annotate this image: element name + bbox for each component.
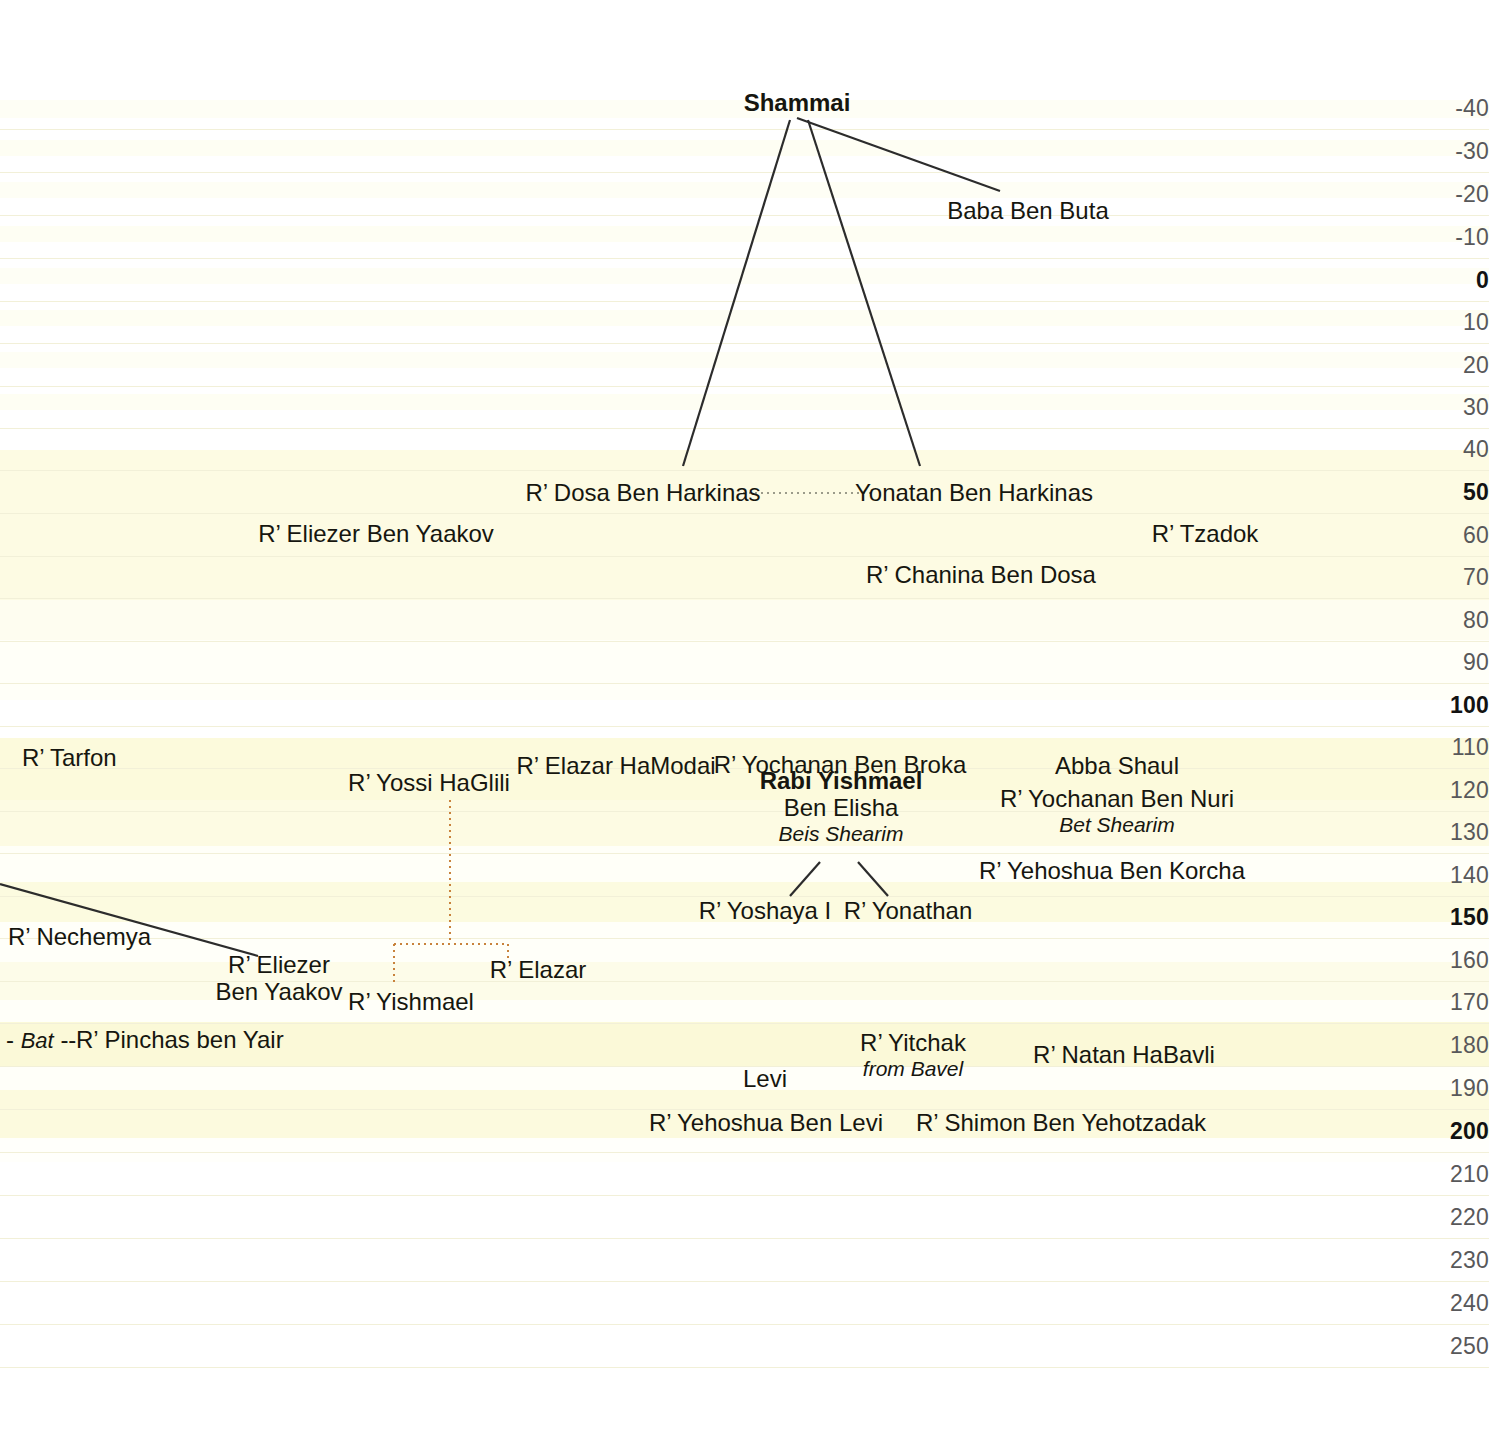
node-yossi-haglili[interactable]: R’ Yossi HaGlili	[348, 770, 510, 797]
node-yoshaya-i[interactable]: R’ Yoshaya I	[699, 898, 832, 925]
node-sublabel: Ben Elisha	[760, 795, 923, 822]
node-nechemya[interactable]: R’ Nechemya	[8, 924, 151, 951]
gridline	[0, 1195, 1489, 1196]
axis-tick-neg20: -20	[1385, 183, 1489, 206]
gridline	[0, 513, 1489, 514]
axis-tick-20: 20	[1385, 354, 1489, 377]
node-eliezer-ben-yaakov-1[interactable]: R’ Eliezer Ben Yaakov	[258, 521, 494, 548]
axis-tick-70: 70	[1385, 566, 1489, 589]
gridline	[0, 556, 1489, 557]
band-row	[0, 450, 1489, 600]
node-label: R’ Pinchas ben Yair	[76, 1027, 284, 1054]
gridline	[0, 1324, 1489, 1325]
node-label: Shammai	[744, 90, 851, 117]
axis-tick-180: 180	[1385, 1034, 1489, 1057]
axis-tick-100: 100	[1385, 694, 1489, 717]
node-label: R’ Yossi HaGlili	[348, 770, 510, 797]
node-shammai[interactable]: Shammai	[744, 90, 851, 117]
gridline	[0, 1281, 1489, 1282]
band-row	[0, 1138, 1489, 1162]
axis-tick-160: 160	[1385, 949, 1489, 972]
axis-tick-80: 80	[1385, 609, 1489, 632]
gridline	[0, 1152, 1489, 1153]
node-label: R’ Natan HaBavli	[1033, 1042, 1215, 1069]
node-label: R’ Yochanan Ben Nuri	[1000, 786, 1234, 813]
gridline	[0, 343, 1489, 344]
gridline	[0, 1367, 1489, 1368]
node-place: from Bavel	[860, 1057, 966, 1081]
node-eliezer-ben-yaakov-2[interactable]: R’ EliezerBen Yaakov	[215, 952, 342, 1006]
band-row	[0, 394, 1489, 410]
gridline	[0, 258, 1489, 259]
node-rabi-yishmael-ben-elisha[interactable]: Rabi YishmaelBen ElishaBeis Shearim	[760, 768, 923, 845]
axis-tick-neg40: -40	[1385, 97, 1489, 120]
gridline	[0, 853, 1489, 854]
node-label: Abba Shaul	[1055, 753, 1179, 780]
axis-tick-30: 30	[1385, 396, 1489, 419]
node-yochanan-ben-nuri[interactable]: R’ Yochanan Ben NuriBet Shearim	[1000, 786, 1234, 836]
node-label: R’ Yoshaya I	[699, 898, 832, 925]
node-yonathan[interactable]: R’ Yonathan	[844, 898, 973, 925]
bat-dash-right: --	[60, 1026, 76, 1053]
gridline	[0, 172, 1489, 173]
node-chanina-ben-dosa[interactable]: R’ Chanina Ben Dosa	[866, 562, 1096, 589]
node-label: R’ Elazar	[490, 957, 586, 984]
gridline	[0, 470, 1489, 471]
band-row	[0, 640, 1489, 700]
node-label: R’ Yehoshua Ben Levi	[649, 1110, 883, 1137]
axis-tick-130: 130	[1385, 821, 1489, 844]
node-label: R’ Tzadok	[1152, 521, 1259, 548]
node-label: R’ Elazar HaModai	[516, 753, 715, 780]
bat-dash-left: -	[6, 1026, 14, 1053]
node-baba-ben-buta[interactable]: Baba Ben Buta	[947, 198, 1108, 225]
gridline	[0, 129, 1489, 130]
axis-tick-90: 90	[1385, 651, 1489, 674]
node-label: Baba Ben Buta	[947, 198, 1108, 225]
node-label: Levi	[743, 1066, 787, 1093]
node-shimon-ben-yehotzadak[interactable]: R’ Shimon Ben Yehotzadak	[916, 1110, 1206, 1137]
axis-tick-0: 0	[1385, 269, 1489, 292]
node-yehoshua-ben-korcha[interactable]: R’ Yehoshua Ben Korcha	[979, 858, 1245, 885]
bat-marker: - Bat --	[6, 1027, 76, 1054]
node-yehoshua-ben-levi[interactable]: R’ Yehoshua Ben Levi	[649, 1110, 883, 1137]
node-elazar-hamodai[interactable]: R’ Elazar HaModai	[516, 753, 715, 780]
node-label: Yonatan Ben Harkinas	[855, 480, 1093, 507]
axis-tick-210: 210	[1385, 1163, 1489, 1186]
timeline-diagram: -40-30-20-100102030405060708090100110120…	[0, 0, 1489, 1432]
band-row	[0, 310, 1489, 326]
node-yonatan-ben-harkinas[interactable]: Yonatan Ben Harkinas	[855, 480, 1093, 507]
node-abba-shaul[interactable]: Abba Shaul	[1055, 753, 1179, 780]
node-sublabel: Ben Yaakov	[215, 979, 342, 1006]
axis-tick-250: 250	[1385, 1335, 1489, 1358]
axis-tick-240: 240	[1385, 1292, 1489, 1315]
band-row	[0, 226, 1489, 242]
node-levi[interactable]: Levi	[743, 1066, 787, 1093]
node-yitchak-from-bavel[interactable]: R’ Yitchakfrom Bavel	[860, 1030, 966, 1080]
gridline	[0, 598, 1489, 599]
node-label: Rabi Yishmael	[760, 768, 923, 795]
gridline	[0, 683, 1489, 684]
node-label: R’ Eliezer Ben Yaakov	[258, 521, 494, 548]
node-natan-habavli[interactable]: R’ Natan HaBavli	[1033, 1042, 1215, 1069]
node-pinchas-ben-yair[interactable]: R’ Pinchas ben Yair	[76, 1027, 284, 1054]
node-tarfon[interactable]: R’ Tarfon	[22, 745, 117, 772]
node-yishmael[interactable]: R’ Yishmael	[348, 989, 474, 1016]
axis-tick-50: 50	[1385, 481, 1489, 504]
band-row	[0, 182, 1489, 198]
bat-label: Bat	[21, 1028, 54, 1053]
band-row	[0, 352, 1489, 368]
axis-tick-neg30: -30	[1385, 140, 1489, 163]
node-elazar[interactable]: R’ Elazar	[490, 957, 586, 984]
band-row	[0, 140, 1489, 156]
axis-tick-200: 200	[1385, 1120, 1489, 1143]
band-row	[0, 846, 1489, 882]
node-label: R’ Nechemya	[8, 924, 151, 951]
axis-tick-140: 140	[1385, 864, 1489, 887]
node-tzadok[interactable]: R’ Tzadok	[1152, 521, 1259, 548]
node-label: R’ Dosa Ben Harkinas	[525, 480, 760, 507]
node-label: R’ Yitchak	[860, 1030, 966, 1057]
band-row	[0, 600, 1489, 640]
gridline	[0, 641, 1489, 642]
node-dosa-ben-harkinas[interactable]: R’ Dosa Ben Harkinas	[525, 480, 760, 507]
axis-tick-230: 230	[1385, 1249, 1489, 1272]
